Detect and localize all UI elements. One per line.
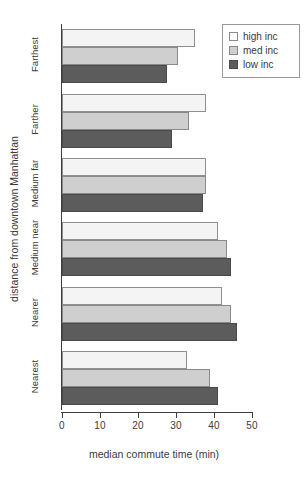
x-axis-title: median commute time (min) — [0, 448, 308, 460]
bar-medium-near-high-inc — [62, 222, 218, 240]
bar-medium-near-med-inc — [62, 240, 227, 258]
bar-chart: distance from downtown Manhattan 0102030… — [0, 0, 308, 486]
bar-nearest-low-inc — [62, 387, 218, 405]
legend-item-med-inc[interactable]: med inc — [229, 44, 294, 57]
legend-label-high-inc: high inc — [243, 31, 277, 42]
x-tick-label-0: 0 — [47, 420, 77, 431]
legend-item-high-inc[interactable]: high inc — [229, 30, 294, 43]
x-axis-line — [61, 412, 253, 413]
bar-farthest-high-inc — [62, 29, 195, 47]
bar-farthest-med-inc — [62, 47, 178, 65]
legend-label-low-inc: low inc — [243, 59, 274, 70]
x-tick-label-40: 40 — [199, 420, 229, 431]
bar-medium-far-low-inc — [62, 194, 203, 212]
legend-label-med-inc: med inc — [243, 45, 278, 56]
legend-swatch-high-inc-icon — [229, 32, 238, 41]
plot-area — [62, 24, 252, 410]
bar-nearer-low-inc — [62, 323, 237, 341]
x-tick-label-10: 10 — [85, 420, 115, 431]
legend-swatch-med-inc-icon — [229, 46, 238, 55]
x-tick-30 — [176, 412, 177, 418]
bar-nearer-med-inc — [62, 305, 231, 323]
bar-medium-far-high-inc — [62, 158, 206, 176]
x-tick-10 — [100, 412, 101, 418]
legend: high inc med inc low inc — [222, 24, 300, 78]
bar-farther-low-inc — [62, 130, 172, 148]
x-tick-40 — [214, 412, 215, 418]
x-tick-label-50: 50 — [237, 420, 267, 431]
bar-farther-high-inc — [62, 94, 206, 112]
bar-medium-far-med-inc — [62, 176, 206, 194]
y-axis-title: distance from downtown Manhattan — [8, 119, 20, 319]
x-tick-0 — [62, 412, 63, 418]
x-tick-20 — [138, 412, 139, 418]
bar-farther-med-inc — [62, 112, 189, 130]
x-tick-label-30: 30 — [161, 420, 191, 431]
legend-item-low-inc[interactable]: low inc — [229, 58, 294, 71]
y-category-label-nearest: Nearest — [29, 334, 40, 418]
legend-swatch-low-inc-icon — [229, 60, 238, 69]
x-tick-50 — [252, 412, 253, 418]
x-tick-label-20: 20 — [123, 420, 153, 431]
bar-farthest-low-inc — [62, 65, 167, 83]
bar-nearest-med-inc — [62, 369, 210, 387]
bar-medium-near-low-inc — [62, 258, 231, 276]
bar-nearer-high-inc — [62, 287, 222, 305]
bar-nearest-high-inc — [62, 351, 187, 369]
